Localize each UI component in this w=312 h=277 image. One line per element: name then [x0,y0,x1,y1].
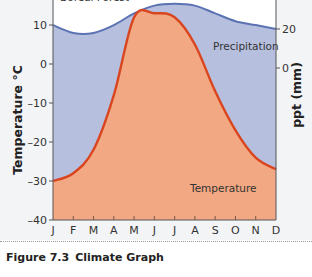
y-tick-label: –10 [28,97,48,110]
y-tick-label: –30 [28,175,48,188]
month-label: J [172,224,176,237]
y-axis-right-title: ppt (mm) [289,62,304,128]
y-tick-label: –20 [28,136,48,149]
month-label: M [89,224,99,237]
figure-title: Climate Graph [75,251,164,264]
month-label: A [110,224,118,237]
climate-graph: 100–10–20–30–40 200 JFMAMJJASOND Boreal … [0,0,312,277]
month-label: A [191,224,199,237]
figure-caption: Figure 7.3Climate Graph [6,251,164,264]
caption-divider [0,241,312,242]
y-tick-label: 0 [40,58,47,71]
y-tick-label: –40 [28,214,48,227]
month-label: N [252,224,260,237]
y-axis-left-ticks: 100–10–20–30–40 [28,19,54,227]
precipitation-label: Precipitation [213,40,279,52]
month-label: J [50,224,54,237]
figure-number: Figure 7.3 [6,251,69,264]
month-label: F [70,224,76,237]
y-axis-left-title: Temperature °C [10,65,25,175]
month-label: O [231,224,240,237]
month-label: S [212,224,219,237]
month-label: J [152,224,156,237]
biome-label: Boreal Forest [60,0,129,3]
y-tick-label: 10 [33,19,47,32]
y-right-tick-label: 0 [282,62,289,75]
temperature-label: Temperature [189,182,257,194]
y-right-tick-label: 20 [282,23,296,36]
month-label: M [129,224,139,237]
month-label: D [272,224,280,237]
